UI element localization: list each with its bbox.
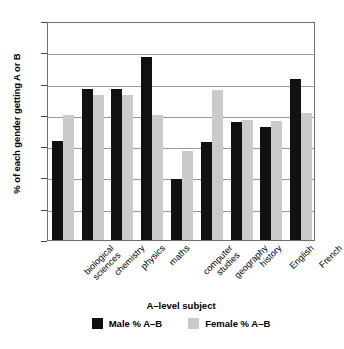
x-axis-tick-label: French: [317, 243, 344, 270]
bar-group: [260, 23, 282, 240]
bar-group: [290, 23, 312, 240]
bar: [122, 95, 133, 240]
x-axis-tick-labels: biologicalscienceschemistryphysicsmathsc…: [47, 243, 315, 301]
bar: [271, 121, 282, 241]
bar: [152, 115, 163, 240]
y-axis-title: % of each gender getting A or B: [11, 14, 22, 234]
bar: [260, 127, 271, 240]
bar-group: [82, 23, 104, 240]
legend-item: Male % A–B: [92, 318, 163, 329]
bar: [82, 89, 93, 240]
bar-series-container: [48, 23, 314, 240]
bar: [111, 89, 122, 240]
bar: [63, 115, 74, 240]
x-axis-tick-label: computerstudies: [201, 243, 242, 284]
bar: [290, 79, 301, 240]
bar: [182, 151, 193, 240]
legend-label: Male % A–B: [109, 318, 163, 329]
x-axis-tick-label: English: [288, 243, 316, 271]
bar-group: [52, 23, 74, 240]
bar: [171, 179, 182, 240]
legend: Male % A–BFemale % A–B: [47, 318, 315, 329]
bar-group: [171, 23, 193, 240]
bar-group: [231, 23, 253, 240]
bar-group: [141, 23, 163, 240]
bar: [242, 120, 253, 240]
bar: [201, 142, 212, 240]
legend-swatch: [92, 318, 103, 329]
bar-group: [111, 23, 133, 240]
x-axis-tick-label-line: English: [288, 243, 316, 271]
x-axis-tick-label-line: maths: [167, 243, 191, 267]
bar: [231, 122, 242, 240]
legend-swatch: [188, 318, 199, 329]
y-axis-tick-mark: [41, 241, 47, 242]
bar: [93, 95, 104, 240]
bar: [301, 113, 312, 240]
legend-label: Female % A–B: [205, 318, 270, 329]
x-axis-tick-label: biologicalsciences: [82, 243, 123, 284]
x-axis-title: A–level subject: [47, 300, 315, 311]
bar: [141, 57, 152, 240]
x-axis-tick-label-line: French: [317, 243, 344, 270]
x-axis-tick-label: maths: [167, 243, 191, 267]
legend-item: Female % A–B: [188, 318, 270, 329]
bar: [212, 90, 223, 240]
bar: [52, 141, 63, 240]
plot-area: [47, 22, 315, 241]
bar-group: [201, 23, 223, 240]
